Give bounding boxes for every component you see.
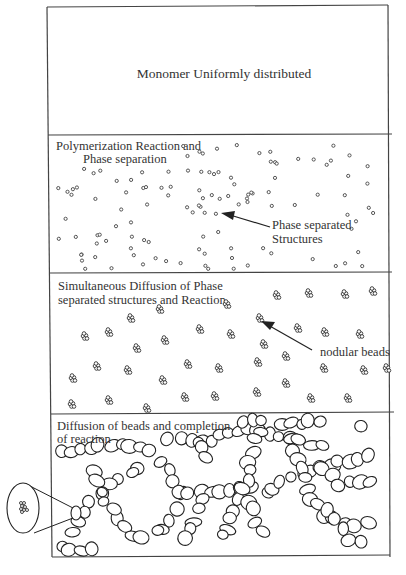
- nodular-beads-arrow: [261, 321, 312, 350]
- svg-text:Phase separated: Phase separated: [272, 218, 352, 232]
- frame-top: [47, 5, 388, 7]
- phase-structures-label-1: Phase separated: [272, 218, 352, 232]
- svg-text:Monomer Uniformly distributed: Monomer Uniformly distributed: [137, 66, 312, 81]
- magnifier-callout: [7, 483, 73, 533]
- frame-bottom: [52, 555, 390, 557]
- svg-text:of reaction: of reaction: [57, 432, 112, 446]
- divider-3: [51, 412, 394, 414]
- panel-4-label-line-2: of reaction: [57, 432, 112, 446]
- svg-text:Polymerization Reaction and: Polymerization Reaction and: [56, 139, 202, 153]
- phase-structures-label-2: Structures: [272, 232, 323, 246]
- phase-structures-arrow: [221, 211, 270, 227]
- panel-diffusion: Simultaneous Diffusion of Phase separate…: [58, 279, 391, 412]
- svg-text:nodular beads: nodular beads: [320, 345, 390, 359]
- panel-3-label-line-1: Simultaneous Diffusion of Phase: [58, 279, 223, 293]
- svg-text:Structures: Structures: [272, 232, 323, 246]
- svg-text:Phase separation: Phase separation: [83, 152, 167, 166]
- panel-completion: Diffusion of beads and completion of rea…: [54, 412, 379, 558]
- magnifier-lens: [7, 483, 39, 533]
- panel-1-label: Monomer Uniformly distributed: [137, 66, 312, 81]
- svg-text:separated structures and React: separated structures and Reaction: [58, 293, 226, 307]
- frame-left: [47, 7, 52, 557]
- panel-2-label-line-2: Phase separation: [83, 152, 167, 166]
- panel-3-label-line-2: separated structures and Reaction: [58, 293, 226, 307]
- panel-monomer: Monomer Uniformly distributed: [137, 66, 312, 81]
- diagram-canvas: Monomer Uniformly distributed Polymeriza…: [0, 0, 406, 575]
- panel-4-label-line-1: Diffusion of beads and completion: [57, 419, 231, 433]
- panel-phase-separation: Polymerization Reaction and Phase separa…: [56, 139, 375, 270]
- panel-2-label-line-1: Polymerization Reaction and: [56, 139, 202, 153]
- frame-right: [388, 5, 390, 557]
- divider-2: [50, 272, 392, 273]
- divider-1: [48, 134, 392, 135]
- svg-text:Simultaneous Diffusion of Phas: Simultaneous Diffusion of Phase: [58, 279, 223, 293]
- nodular-beads-label: nodular beads: [320, 345, 390, 359]
- svg-text:Diffusion of beads and complet: Diffusion of beads and completion: [57, 419, 231, 433]
